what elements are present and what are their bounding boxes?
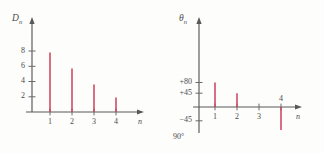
phase-x-tick-label-2: 2: [231, 113, 243, 121]
y-axis-arrow-icon: [29, 17, 34, 24]
magnitude-x-tick-label-2: 2: [66, 118, 78, 126]
magnitude-y-axis-subscript: n: [19, 18, 22, 25]
magnitude-spectrum-chart: Dn 8 6 4 2 1 2 3 4 n: [0, 0, 162, 153]
magnitude-y-tick-label-4: 4: [12, 77, 25, 85]
phase-x-tick-label-3: 3: [253, 113, 265, 121]
stem-plot-figure: Dn 8 6 4 2 1 2 3 4 n: [0, 0, 324, 153]
magnitude-y-tick-label-8: 8: [12, 47, 25, 55]
x-axis-arrow-icon: [295, 104, 302, 109]
phase-y-tick-label-plus45: +45: [167, 89, 192, 97]
phase-stem-label-n4: 4: [275, 95, 287, 103]
magnitude-x-tick-label-1: 1: [44, 118, 56, 126]
magnitude-y-tick-label-2: 2: [12, 92, 25, 100]
magnitude-x-tick-label-3: 3: [88, 118, 100, 126]
phase-spectrum-chart: θn +80 +45 −45 1 2 3 4 n 90°: [162, 0, 324, 153]
magnitude-x-axis-label: n: [138, 118, 142, 126]
y-axis-arrow-icon: [196, 17, 201, 24]
phase-y-tick-label-plus80: +80: [167, 78, 192, 86]
magnitude-x-tick-label-4: 4: [110, 118, 122, 126]
x-axis-arrow-icon: [137, 109, 144, 114]
phase-y-axis-label: θn: [179, 14, 187, 25]
phase-y-tick-label-minus45: −45: [167, 116, 192, 124]
magnitude-y-tick-label-6: 6: [12, 62, 25, 70]
phase-x-axis-label: n: [296, 113, 300, 121]
phase-x-tick-label-1: 1: [209, 113, 221, 121]
phase-y-axis-subscript: n: [184, 18, 187, 25]
magnitude-y-axis-symbol: D: [12, 13, 19, 23]
magnitude-y-axis-label: Dn: [12, 14, 22, 25]
phase-note-90-degrees: 90°: [173, 133, 184, 141]
